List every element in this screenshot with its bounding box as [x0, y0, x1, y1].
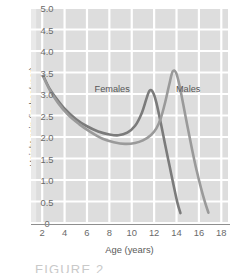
y-tick-label: 2.5: [34, 110, 60, 121]
y-tick-label: 3.5: [34, 67, 60, 78]
x-axis-title: Age (years): [31, 244, 228, 255]
x-tick-label: 6: [77, 227, 97, 238]
figure-caption: FIGURE 2: [35, 262, 105, 273]
y-tick-label: 1.5: [34, 153, 60, 164]
y-tick-label: 0.5: [34, 196, 60, 207]
y-tick-label: 5.0: [34, 3, 60, 14]
x-tick-label: 8: [99, 227, 119, 238]
x-tick-label: 18: [211, 227, 231, 238]
y-tick-label: 3.0: [34, 89, 60, 100]
y-tick-label: 4.0: [34, 46, 60, 57]
x-tick-label: 10: [122, 227, 142, 238]
x-tick-label: 12: [144, 227, 164, 238]
x-tick-label: 2: [32, 227, 52, 238]
y-tick-label: 4.5: [34, 24, 60, 35]
series-label-females: Females: [95, 84, 130, 94]
series-curves: [31, 8, 228, 223]
series-line-females: [43, 76, 180, 213]
x-tick-label: 16: [189, 227, 209, 238]
y-tick-label: 1.0: [34, 175, 60, 186]
plot-area: 5.04.54.03.53.02.52.01.51.00.50 Females …: [31, 8, 228, 223]
x-axis-line: [31, 224, 230, 225]
y-tick-label: 2.0: [34, 132, 60, 143]
x-tick-label: 4: [55, 227, 75, 238]
x-tick-label: 14: [167, 227, 187, 238]
series-label-males: Males: [176, 84, 201, 94]
growth-velocity-figure: Height gain (inches/year) 5.04.54.03.53.…: [0, 0, 238, 273]
